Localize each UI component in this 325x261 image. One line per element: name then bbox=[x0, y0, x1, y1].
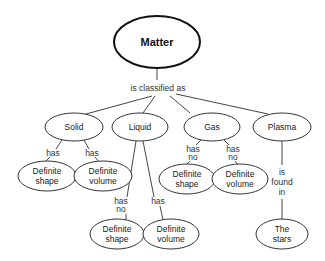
edge-to-plasma bbox=[176, 94, 268, 114]
link-plasma-found-3: in bbox=[279, 187, 286, 197]
node-solid-definite-volume: Definite volume bbox=[74, 161, 132, 191]
link-solid-has-volume: has bbox=[85, 148, 99, 158]
node-matter: Matter bbox=[114, 16, 200, 68]
link-classified-as: is classified as bbox=[131, 83, 186, 93]
edge-liquid-has-b bbox=[160, 206, 163, 220]
node-matter-label: Matter bbox=[140, 36, 174, 48]
link-gas-hasno-shape-2: no bbox=[188, 152, 198, 162]
node-liquid-label: Liquid bbox=[129, 122, 152, 132]
edge-to-solid bbox=[86, 96, 152, 114]
label-line2: shape bbox=[175, 179, 198, 189]
link-liquid-hasno-2: no bbox=[116, 204, 126, 214]
node-plasma-label: Plasma bbox=[268, 122, 297, 132]
node-gas-definite-volume: Definite volume bbox=[212, 164, 268, 194]
label-line1: Definite bbox=[157, 224, 186, 234]
label-line2: shape bbox=[105, 234, 128, 244]
edge-to-gas bbox=[170, 96, 190, 113]
link-plasma-found-1: is bbox=[279, 167, 285, 177]
link-liquid-has: has bbox=[151, 196, 165, 206]
node-gas-definite-shape: Definite shape bbox=[159, 164, 215, 194]
node-liquid: Liquid bbox=[112, 113, 168, 141]
node-plasma: Plasma bbox=[253, 113, 311, 141]
link-plasma-found-2: found bbox=[271, 177, 293, 187]
label-line2: shape bbox=[35, 176, 58, 186]
link-gas-hasno-volume-2: no bbox=[228, 152, 238, 162]
link-solid-has-shape: has bbox=[46, 148, 60, 158]
node-solid-label: Solid bbox=[65, 122, 84, 132]
node-liquid-definite-volume: Definite volume bbox=[143, 219, 199, 249]
label-line2: volume bbox=[157, 234, 185, 244]
label-line1: The bbox=[275, 224, 290, 234]
node-solid-definite-shape: Definite shape bbox=[18, 161, 76, 191]
label-line1: Definite bbox=[33, 166, 62, 176]
concept-map: Matter is classified as Solid Liquid Gas… bbox=[0, 0, 325, 261]
label-line2: volume bbox=[226, 179, 254, 189]
edge-liquid-has bbox=[143, 141, 154, 197]
label-line1: Definite bbox=[89, 166, 118, 176]
label-line2: volume bbox=[89, 176, 117, 186]
edge-to-liquid bbox=[143, 96, 155, 113]
node-liquid-definite-shape: Definite shape bbox=[90, 219, 144, 249]
node-solid: Solid bbox=[45, 113, 103, 141]
label-line1: Definite bbox=[226, 169, 255, 179]
label-line1: Definite bbox=[173, 169, 202, 179]
label-line2: stars bbox=[273, 234, 291, 244]
node-the-stars: The stars bbox=[256, 219, 308, 249]
node-gas: Gas bbox=[184, 113, 240, 141]
node-gas-label: Gas bbox=[204, 122, 220, 132]
label-line1: Definite bbox=[103, 224, 132, 234]
